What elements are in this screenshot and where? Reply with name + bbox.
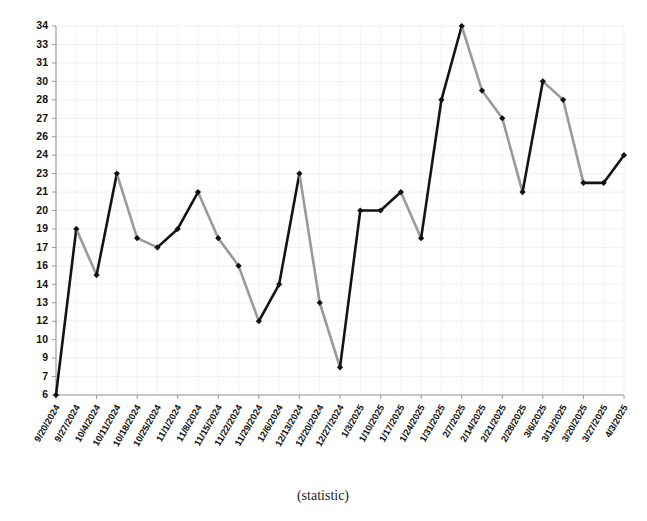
y-tick-label: 28 <box>36 93 48 105</box>
x-tick-labels: 9/20/20249/27/202410/4/202410/11/202410/… <box>32 402 629 448</box>
line-segment <box>239 266 259 321</box>
line-segment <box>320 303 340 368</box>
data-point-marker <box>357 207 363 213</box>
y-tick-label: 30 <box>36 75 48 87</box>
line-segment <box>117 174 137 239</box>
y-tick-label: 21 <box>36 185 48 197</box>
y-tick-label: 12 <box>36 314 48 326</box>
y-tick-label: 34 <box>36 19 48 31</box>
y-tick-label: 31 <box>36 56 48 68</box>
line-segment <box>56 229 76 395</box>
line-segment <box>299 174 319 303</box>
line-segment <box>421 100 441 238</box>
data-point-marker <box>53 392 59 398</box>
line-segment <box>198 192 218 238</box>
y-tick-label: 9 <box>42 351 48 363</box>
y-tick-label: 19 <box>36 222 48 234</box>
data-point-marker <box>337 364 343 370</box>
x-tick-marks <box>56 395 624 399</box>
line-segment <box>340 211 360 368</box>
line-segment <box>543 81 563 99</box>
line-chart: 343331302827262423212019171614131210976 … <box>0 0 647 521</box>
y-tick-label: 14 <box>36 278 48 290</box>
y-tick-label: 27 <box>36 112 48 124</box>
line-segment <box>76 229 96 275</box>
data-point-marker <box>114 171 120 177</box>
line-segment <box>604 155 624 183</box>
data-point-marker <box>438 97 444 103</box>
line-segment <box>482 91 502 119</box>
data-point-marker <box>296 171 302 177</box>
x-axis-title: (statistic) <box>297 488 349 504</box>
line-segment <box>563 100 583 183</box>
y-tick-label: 10 <box>36 333 48 345</box>
line-segment <box>218 238 238 266</box>
y-tick-label: 33 <box>36 38 48 50</box>
data-point-marker <box>580 180 586 186</box>
line-segment <box>97 174 117 275</box>
line-segment <box>401 192 421 238</box>
y-tick-label: 17 <box>36 241 48 253</box>
y-tick-label: 6 <box>42 388 48 400</box>
y-tick-labels: 343331302827262423212019171614131210976 <box>36 19 48 400</box>
y-tick-label: 26 <box>36 130 48 142</box>
line-segment <box>157 229 177 247</box>
y-tick-label: 7 <box>42 370 48 382</box>
y-tick-label: 24 <box>36 148 48 160</box>
line-segment <box>381 192 401 210</box>
y-tick-label: 16 <box>36 259 48 271</box>
y-tick-label: 23 <box>36 167 48 179</box>
data-point-marker <box>459 23 465 29</box>
y-tick-label: 20 <box>36 204 48 216</box>
data-point-marker <box>519 189 525 195</box>
y-tick-label: 13 <box>36 296 48 308</box>
line-segment <box>137 238 157 247</box>
line-segment <box>462 26 482 91</box>
y-tick-marks <box>52 26 56 395</box>
data-point-marker <box>317 300 323 306</box>
chart-container: 343331302827262423212019171614131210976 … <box>0 0 647 521</box>
